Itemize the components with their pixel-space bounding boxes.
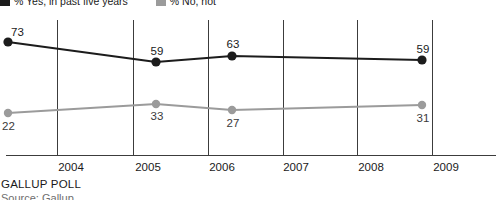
data-label-yes-3: 59 — [417, 43, 430, 56]
data-label-no-0: 22 — [2, 120, 15, 133]
x-tick-label-2008: 2008 — [358, 161, 384, 174]
x-tick-label-2004: 2004 — [58, 161, 84, 174]
data-label-no-3: 31 — [417, 112, 430, 125]
series-line-yes — [8, 42, 422, 62]
line-chart: % Yes, in past five years % No, not — [0, 0, 500, 200]
data-label-no-1: 33 — [151, 110, 164, 123]
source-title: GALLUP POLL — [1, 178, 81, 191]
series-line-no — [8, 104, 422, 113]
x-tick-label-2009: 2009 — [433, 161, 459, 174]
data-label-yes-2: 63 — [227, 38, 240, 51]
data-label-no-2: 27 — [227, 117, 240, 130]
x-tick-label-2007: 2007 — [283, 161, 309, 174]
series-markers-yes — [3, 37, 426, 66]
source-credit: Source: Gallup — [1, 192, 74, 200]
x-tick-label-2006: 2006 — [209, 161, 235, 174]
plot-area — [0, 0, 500, 160]
x-tick-label-2005: 2005 — [135, 161, 161, 174]
data-label-yes-0: 73 — [11, 26, 24, 39]
data-label-yes-1: 59 — [151, 45, 164, 58]
gridlines — [58, 20, 433, 155]
